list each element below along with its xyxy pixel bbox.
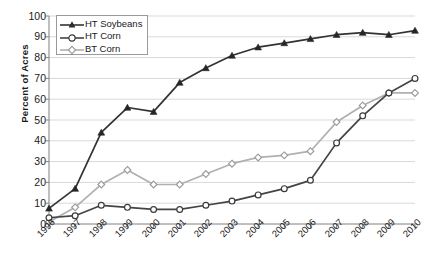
- x-axis-tick-label: 2008: [349, 217, 371, 239]
- x-axis-tick-label: 2010: [401, 217, 423, 239]
- x-axis-tick-label: 2002: [192, 217, 214, 239]
- y-axis-title: Percent of Acres: [19, 24, 30, 144]
- x-axis-tick-label: 2004: [244, 217, 266, 239]
- legend-item-ht-corn: HT Corn: [59, 30, 147, 43]
- x-axis-tick-label: 2003: [218, 217, 240, 239]
- chart-legend: HT Soybeans HT Corn BT Corn: [56, 15, 148, 55]
- legend-marker-open-diamond-icon: [59, 42, 85, 54]
- x-axis-tick-label: 2001: [166, 217, 188, 239]
- x-axis-tick-label: 1997: [61, 217, 83, 239]
- x-axis-tick-label: 1998: [87, 217, 109, 239]
- x-axis-tick-label: 1996: [35, 217, 57, 239]
- x-axis-tick-label: 2000: [140, 217, 162, 239]
- x-axis-tick-label: 1999: [113, 217, 135, 239]
- legend-label-ht-corn: HT Corn: [85, 31, 121, 41]
- x-axis-tick-label: 2005: [270, 217, 292, 239]
- legend-item-ht-soybeans: HT Soybeans: [59, 17, 147, 30]
- chart-container: 0102030405060708090100 19961997199819992…: [0, 0, 424, 268]
- x-axis-tick-label: 2006: [296, 217, 318, 239]
- legend-label-bt-corn: BT Corn: [85, 44, 120, 54]
- legend-marker-filled-triangle-icon: [59, 17, 85, 29]
- legend-label-ht-soybeans: HT Soybeans: [85, 19, 142, 29]
- legend-item-bt-corn: BT Corn: [59, 42, 147, 55]
- x-axis-tick-label: 2007: [323, 217, 345, 239]
- legend-marker-open-circle-icon: [59, 30, 85, 42]
- x-axis-tick-label: 2009: [375, 217, 397, 239]
